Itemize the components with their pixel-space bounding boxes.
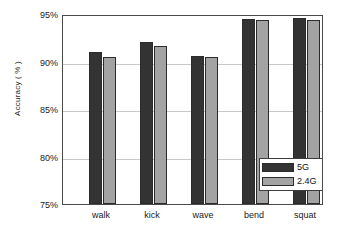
x-tick-label-squat: squat [275,210,335,220]
bar-walk-5g [89,52,102,204]
legend-swatch-24g [262,177,294,186]
bar-wave-5g [191,56,204,205]
y-tick-label: 95% [18,10,58,20]
bar-walk-24g [103,57,116,204]
y-tick-label: 85% [18,105,58,115]
bar-kick-24g [154,46,167,204]
y-axis-tick-labels: 75% 80% 85% 90% 95% [14,15,58,205]
legend: 5G 2.4G [259,158,323,191]
legend-entry-5g: 5G [262,161,320,174]
x-axis-tick-labels: walk kick wave bend squat [62,210,323,228]
legend-entry-24g: 2.4G [262,175,320,188]
y-tick-label: 90% [18,58,58,68]
bar-kick-5g [140,42,153,204]
y-tick-label: 75% [18,200,58,210]
legend-swatch-5g [262,163,294,172]
plot-area: 5G 2.4G [62,15,323,205]
legend-label-5g: 5G [297,163,309,172]
bar-wave-24g [205,57,218,204]
bar-chart-figure: Accuracy ( % ) 75% 80% 85% 90% 95% [0,0,338,243]
y-tick-label: 80% [18,153,58,163]
bar-bend-5g [242,19,255,204]
legend-label-24g: 2.4G [297,177,317,186]
